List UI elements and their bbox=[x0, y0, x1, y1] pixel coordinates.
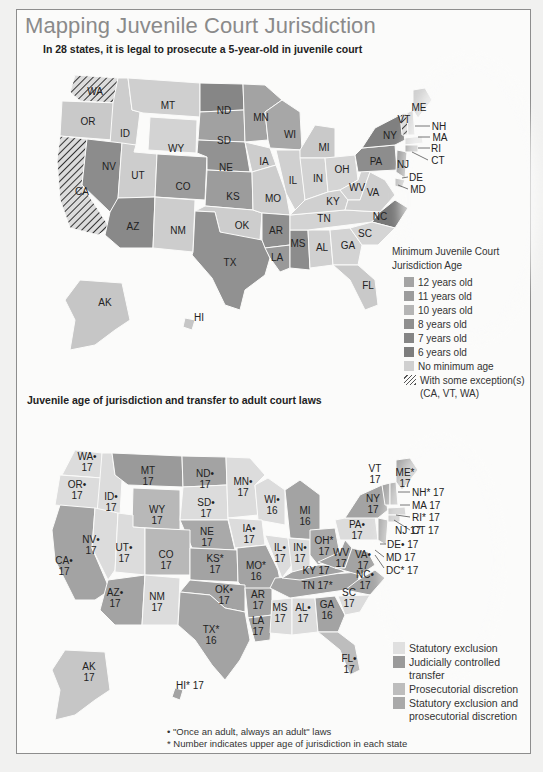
state-label[interactable]: MD bbox=[410, 184, 426, 195]
state-label[interactable]: LA bbox=[271, 252, 283, 263]
callout-label[interactable]: RI* 17 bbox=[412, 512, 440, 523]
state-label[interactable]: MI16 bbox=[299, 505, 310, 527]
state-label[interactable]: TN 17* bbox=[301, 580, 332, 591]
state-label[interactable]: NC•17 bbox=[356, 569, 374, 591]
state-label[interactable]: IA•17 bbox=[243, 523, 256, 545]
state-label[interactable]: SC17 bbox=[342, 587, 356, 609]
state-label[interactable]: AZ bbox=[127, 221, 140, 232]
state-label[interactable]: NM bbox=[170, 225, 186, 236]
state-label[interactable]: NH bbox=[432, 121, 446, 132]
state-label[interactable]: GA bbox=[341, 240, 355, 251]
state-label[interactable]: ND bbox=[217, 105, 231, 116]
state-label[interactable]: AK17 bbox=[82, 661, 95, 683]
state-label[interactable]: IA bbox=[259, 156, 268, 167]
state-label[interactable]: AR17 bbox=[251, 589, 265, 611]
state-label[interactable]: OR bbox=[81, 116, 96, 127]
state-label[interactable]: VT17 bbox=[369, 463, 382, 485]
state-label[interactable]: OR•17 bbox=[68, 479, 87, 501]
state-label[interactable]: AL bbox=[316, 242, 328, 253]
state-label[interactable]: OK bbox=[235, 220, 249, 231]
state-label[interactable]: WI bbox=[284, 129, 296, 140]
state-label[interactable]: WA•17 bbox=[77, 451, 96, 473]
callout-label[interactable]: DC* 17 bbox=[386, 565, 418, 576]
state-label[interactable]: OK•17 bbox=[215, 584, 233, 606]
callout-label[interactable]: MA 17 bbox=[412, 500, 440, 511]
state-label[interactable]: SD bbox=[217, 135, 231, 146]
state-label[interactable]: VT bbox=[398, 114, 411, 125]
state-label[interactable]: GA16 bbox=[320, 599, 334, 621]
state-label[interactable]: AR bbox=[269, 225, 283, 236]
state-label[interactable]: IN•17 bbox=[293, 542, 307, 564]
state-label[interactable]: PA bbox=[370, 156, 383, 167]
state-label[interactable]: CO17 bbox=[159, 549, 174, 571]
state-label[interactable]: MN•17 bbox=[233, 476, 252, 498]
state-label[interactable]: TN bbox=[317, 213, 330, 224]
state-label[interactable]: TX bbox=[224, 257, 237, 268]
state-label[interactable]: NE17 bbox=[200, 526, 214, 548]
state-label[interactable]: UT bbox=[131, 170, 144, 181]
callout-label[interactable]: MD 17 bbox=[386, 552, 415, 563]
state-label[interactable]: UT•17 bbox=[116, 542, 133, 564]
state-label[interactable]: ND•17 bbox=[196, 468, 214, 490]
state-label[interactable]: AZ•17 bbox=[107, 587, 123, 609]
state-label[interactable]: WY bbox=[168, 143, 184, 154]
state-label[interactable]: TX*16 bbox=[203, 624, 220, 646]
state-label[interactable]: CT bbox=[431, 155, 444, 166]
state-label[interactable]: LA17 bbox=[252, 615, 264, 637]
state-label[interactable]: FL•17 bbox=[341, 653, 356, 675]
state-label[interactable]: KS*17 bbox=[206, 553, 223, 575]
state-label[interactable]: IN bbox=[313, 173, 323, 184]
state-label[interactable]: MN bbox=[253, 112, 269, 123]
state-label[interactable]: NM17 bbox=[149, 591, 165, 613]
callout-label[interactable]: NH* 17 bbox=[412, 487, 444, 498]
state-label[interactable]: ID•17 bbox=[104, 491, 118, 513]
state-label[interactable]: ME bbox=[412, 102, 427, 113]
state-label[interactable]: AL•17 bbox=[295, 602, 311, 624]
state-label[interactable]: MS bbox=[291, 238, 306, 249]
callout-label[interactable]: DE• 17 bbox=[387, 539, 418, 550]
state-label[interactable]: NY17 bbox=[366, 493, 380, 515]
state-label[interactable]: KS bbox=[226, 191, 239, 202]
state-label[interactable]: MT bbox=[161, 100, 175, 111]
state-label[interactable]: WI•16 bbox=[264, 494, 280, 516]
state-label[interactable]: MS17 bbox=[273, 602, 288, 624]
state-label[interactable]: IL•17 bbox=[274, 542, 286, 564]
state-label[interactable]: KY bbox=[326, 196, 339, 207]
state-label[interactable]: CA•17 bbox=[55, 555, 72, 577]
state-label[interactable]: NE bbox=[219, 162, 233, 173]
state-label[interactable]: IL bbox=[289, 175, 297, 186]
state-label[interactable]: WV17 bbox=[333, 547, 349, 569]
callout-label[interactable]: CT 17 bbox=[412, 525, 439, 536]
state-label[interactable]: SC bbox=[358, 228, 372, 239]
state-label[interactable]: VA•17 bbox=[355, 549, 371, 571]
state-label[interactable]: VA bbox=[367, 187, 380, 198]
state-label[interactable]: ID bbox=[120, 128, 130, 139]
state-label[interactable]: OH*17 bbox=[315, 535, 334, 557]
state-label[interactable]: RI bbox=[431, 143, 441, 154]
state-label[interactable]: MO*16 bbox=[246, 560, 266, 582]
state-label[interactable]: MT17 bbox=[141, 465, 155, 487]
state-label[interactable]: MO bbox=[265, 193, 281, 204]
state-label[interactable]: DE bbox=[409, 172, 423, 183]
state-label[interactable]: MI bbox=[318, 142, 329, 153]
state-label[interactable]: NJ bbox=[397, 159, 409, 170]
state-label[interactable]: NV•17 bbox=[82, 534, 99, 556]
state-label[interactable]: NC bbox=[373, 211, 387, 222]
state-label[interactable]: HI bbox=[194, 312, 204, 323]
state-label[interactable]: CO bbox=[176, 181, 191, 192]
state-label[interactable]: PA•17 bbox=[349, 519, 365, 541]
state-label[interactable]: SD•17 bbox=[197, 497, 214, 519]
state-label[interactable]: MA bbox=[433, 132, 448, 143]
state-label[interactable]: WY17 bbox=[149, 504, 165, 526]
state-label[interactable]: HI* 17 bbox=[176, 680, 204, 691]
state-label[interactable]: AK bbox=[98, 297, 111, 308]
state-label[interactable]: WA bbox=[87, 86, 103, 97]
state-label[interactable]: OH bbox=[335, 164, 350, 175]
state-label[interactable]: FL bbox=[362, 280, 374, 291]
state-label[interactable]: CA bbox=[75, 186, 89, 197]
state-label[interactable]: KY 17 bbox=[302, 565, 329, 576]
state-label[interactable]: NY bbox=[383, 130, 397, 141]
state-wi bbox=[265, 100, 302, 150]
state-label[interactable]: NV bbox=[102, 161, 116, 172]
state-label[interactable]: WV bbox=[349, 182, 365, 193]
